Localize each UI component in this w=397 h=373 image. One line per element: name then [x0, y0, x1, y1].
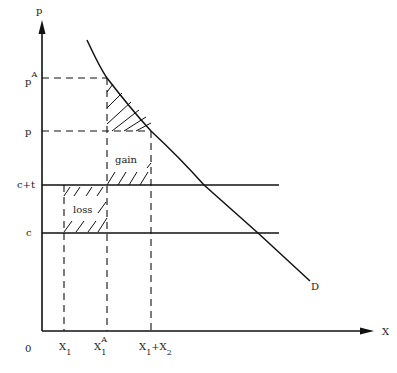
x-tick-X1-plus-X2: X1+X2 [139, 341, 172, 357]
x-axis-arrow-icon [360, 328, 374, 335]
loss-label: loss [73, 204, 92, 215]
x-tick-X1: X1 [59, 341, 71, 357]
dashed-guides [42, 78, 151, 331]
x-tick-X1A: X1A [94, 335, 107, 357]
demand-curve-label: D [311, 281, 319, 292]
y-tick-pA: pA [25, 70, 37, 87]
y-axis-arrow-icon [39, 20, 46, 34]
y-tick-c: c [26, 227, 32, 238]
x-axis-label: X [382, 326, 390, 337]
hatch-gain-region [107, 163, 151, 185]
y-tick-c-plus-t: c+t [17, 179, 35, 190]
origin-label: 0 [25, 343, 31, 354]
y-axis-label: p [36, 5, 42, 16]
axes [39, 20, 375, 335]
price-quantity-diagram: gain loss p X 0 pA p c+t c X1 X1A X1+X2 … [0, 0, 397, 373]
gain-label: gain [115, 154, 138, 165]
y-tick-p: p [25, 126, 31, 137]
